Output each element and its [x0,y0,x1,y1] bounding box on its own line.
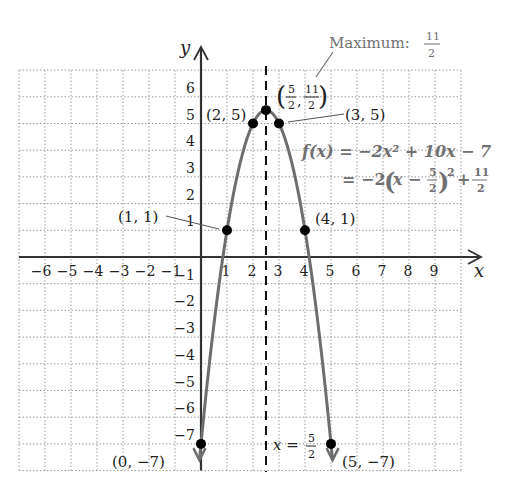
data-point [222,225,232,235]
x-tick-label: 3 [274,263,283,279]
y-tick-label: −7 [174,427,195,443]
point-label-4-1: (4, 1) [315,210,355,228]
axes [19,47,481,471]
x-tick-label: 9 [430,263,439,279]
svg-text:2: 2 [288,99,295,112]
point-label-1-1: (1, 1) [118,208,158,226]
x-tick-label: 2 [248,263,257,279]
svg-text:5: 5 [308,432,315,445]
leader-3-5 [288,114,344,122]
svg-text:,: , [297,93,301,109]
x-axis-label: x [474,260,484,281]
y-tick-label: 5 [186,107,195,123]
parabola-chart: −6−5−4−3−2−1123456789654321−1−2−3−4−5−6−… [0,0,511,503]
data-point [196,439,206,449]
x-tick-label: 8 [404,263,413,279]
data-point [300,225,310,235]
function-equation: f(x) = −2x² + 10x − 7 = −2 ( x − 5 2 ) 2… [301,142,491,196]
x-tick-label: −3 [109,263,130,279]
x-tick-label: 5 [326,263,335,279]
svg-text:5: 5 [429,166,437,179]
point-label-5-m7: (5, −7) [342,453,395,471]
y-axis-label: y [179,37,191,58]
vertex-label: ( 5 2 , 11 2 ) [276,81,328,112]
x-tick-label: 6 [352,263,361,279]
data-point [326,439,336,449]
x-tick-label: 4 [300,263,309,279]
maximum-leader-line [316,52,333,77]
svg-text:2: 2 [308,448,315,461]
x-tick-label: −5 [57,263,78,279]
maximum-label: Maximum: [329,34,410,52]
point-label-3-5: (3, 5) [345,106,385,124]
svg-text:x =: x = [273,436,299,454]
x-tick-label: −4 [83,263,104,279]
svg-text:f(x) = −2x² + 10x − 7: f(x) = −2x² + 10x − 7 [301,142,491,161]
y-tick-label: 3 [186,160,195,176]
data-point [248,119,258,129]
y-tick-label: −5 [174,374,195,390]
x-tick-label: −2 [135,263,156,279]
x-tick-label: −6 [31,263,52,279]
tick-labels: −6−5−4−3−2−1123456789654321−1−2−3−4−5−6−… [31,80,439,443]
maximum-frac-num: 11 [426,30,440,43]
y-tick-label: 2 [186,187,195,203]
data-point [274,119,284,129]
svg-text:x −: x − [392,170,422,189]
y-tick-label: −3 [174,320,195,336]
vertex-form-equation: = −2 ( x − 5 2 ) 2 + 11 2 [342,166,489,196]
svg-text:2: 2 [308,99,315,112]
y-tick-label: 6 [186,80,195,96]
data-point [261,105,271,115]
svg-text:): ) [318,81,328,111]
y-tick-label: −6 [174,400,195,416]
y-tick-label: −1 [174,267,195,283]
svg-text:+: + [457,170,470,189]
point-label-2-5: (2, 5) [206,106,246,124]
x-tick-label: 7 [378,263,387,279]
svg-text:5: 5 [288,83,295,96]
y-tick-label: −4 [174,347,195,363]
axis-of-symmetry-label: x = 5 2 [273,432,316,461]
maximum-frac-den: 2 [428,47,435,60]
point-label-0-m7: (0, −7) [112,453,165,471]
svg-text:2: 2 [477,182,485,195]
svg-text:11: 11 [305,83,319,96]
svg-text:11: 11 [474,166,489,179]
y-tick-label: −2 [174,293,195,309]
svg-text:2: 2 [429,182,437,195]
svg-text:2: 2 [447,166,455,179]
svg-text:(: ( [276,81,286,111]
y-tick-label: 4 [186,133,195,149]
svg-text:= −2: = −2 [342,170,386,189]
